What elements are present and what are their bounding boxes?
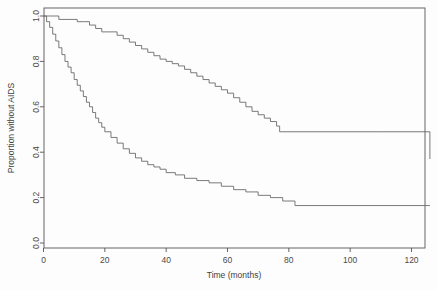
x-tick-label-60: 60	[223, 255, 233, 265]
x-tick-label-100: 100	[343, 255, 357, 265]
upper-curve	[44, 16, 430, 159]
km-survival-figure: 020406080100120 0.00.20.40.60.81.0 Time …	[0, 0, 437, 290]
y-tick-label-0.2: 0.2	[31, 191, 41, 203]
y-axis-tickmarks	[40, 16, 44, 243]
y-tick-label-0.8: 0.8	[31, 55, 41, 67]
x-axis-title: Time (months)	[207, 270, 262, 280]
y-axis-title: Proportion without AIDS	[6, 83, 16, 174]
x-axis-tick-labels: 020406080100120	[41, 255, 419, 265]
x-tick-label-120: 120	[404, 255, 418, 265]
survival-curves	[44, 16, 430, 206]
x-tick-label-40: 40	[161, 255, 171, 265]
y-tick-label-0.4: 0.4	[31, 146, 41, 158]
y-tick-label-1.0: 1.0	[31, 10, 41, 22]
x-tick-label-80: 80	[284, 255, 294, 265]
x-axis-tickmarks	[44, 248, 412, 252]
x-tick-label-0: 0	[41, 255, 46, 265]
y-tick-label-0.0: 0.0	[31, 237, 41, 249]
plot-box	[44, 8, 425, 248]
x-tick-label-20: 20	[100, 255, 110, 265]
lower-curve	[44, 16, 430, 206]
y-tick-label-0.6: 0.6	[31, 101, 41, 113]
kaplan-meier-plot: 020406080100120 0.00.20.40.60.81.0 Time …	[0, 0, 437, 290]
y-axis-tick-labels: 0.00.20.40.60.81.0	[31, 10, 41, 249]
plot-frame	[44, 8, 425, 248]
